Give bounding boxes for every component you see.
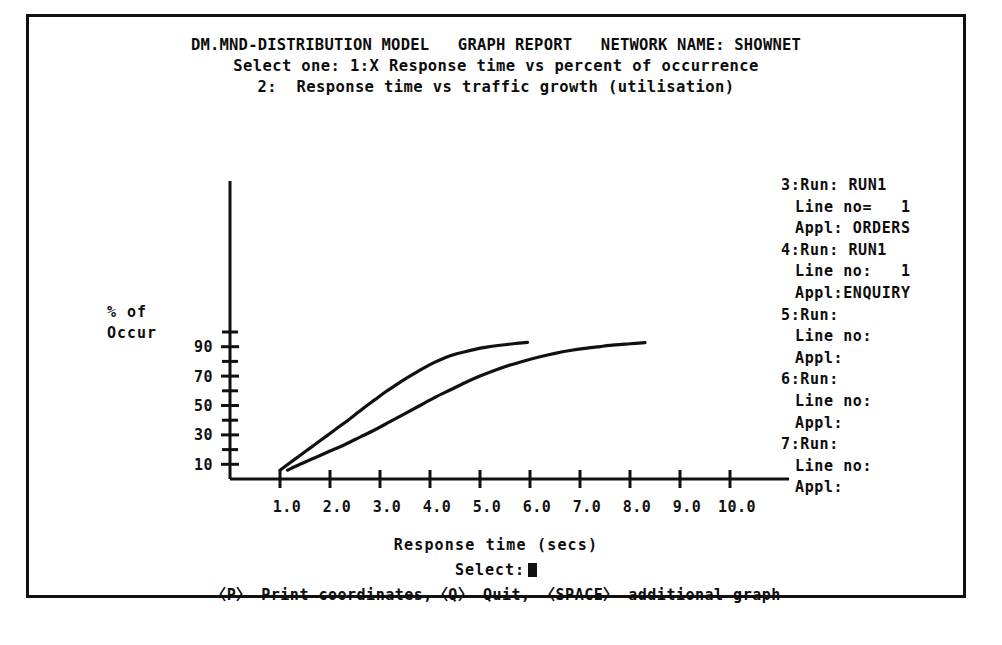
run-row-line-no: Line no: [781, 326, 911, 348]
run-entry-4[interactable]: 4:Run: RUN1Line no: 1Appl:ENQUIRY [781, 240, 911, 305]
x-tick-label: 3.0 [373, 498, 402, 516]
x-tick-label: 6.0 [523, 498, 552, 516]
run-row-line-no: Line no= 1 [781, 197, 911, 219]
run-entry-3[interactable]: 3:Run: RUN1Line no= 1Appl: ORDERS [781, 175, 911, 240]
x-tick-label: 7.0 [573, 498, 602, 516]
run-row-name: 7:Run: [781, 434, 911, 456]
select-prompt-label: Select: [455, 561, 525, 579]
terminal-screen-frame: DM.MND-DISTRIBUTION MODEL GRAPH REPORT N… [26, 14, 966, 598]
x-tick-label: 2.0 [323, 498, 352, 516]
run-row-line-no: Line no: [781, 391, 911, 413]
x-tick-label: 5.0 [473, 498, 502, 516]
x-axis-tick-labels: 1.02.03.04.05.06.07.08.09.010.0 [273, 498, 756, 516]
series-curve-enquiry [288, 343, 646, 471]
select-prompt[interactable]: Select: [29, 561, 963, 579]
command-hint-line: 〈P〉 Print coordinates,〈Q〉 Quit, 〈SPACE〉 … [29, 583, 963, 604]
chart-axes [230, 181, 789, 479]
y-tick-label: 90 [194, 338, 213, 356]
y-tick-label: 70 [194, 368, 213, 386]
block-cursor-icon [528, 563, 537, 577]
series-curve-orders [280, 342, 528, 470]
y-axis-tick-labels: 1030507090 [194, 338, 213, 474]
run-row-appl: Appl: [781, 348, 911, 370]
chart-series-group [280, 342, 645, 470]
run-row-line-no: Line no: [781, 456, 911, 478]
y-axis-label-line2: Occur [107, 324, 157, 342]
x-tick-label: 4.0 [423, 498, 452, 516]
run-row-appl: Appl: [781, 413, 911, 435]
y-axis-label: % ofOccur [107, 302, 157, 344]
run-row-name: 5:Run: [781, 305, 911, 327]
x-tick-label: 10.0 [718, 498, 756, 516]
run-row-appl: Appl: ORDERS [781, 218, 911, 240]
run-entry-5[interactable]: 5:Run:Line no:Appl: [781, 305, 911, 370]
run-row-appl: Appl: [781, 477, 911, 499]
run-selection-list: 3:Run: RUN1Line no= 1Appl: ORDERS4:Run: … [781, 175, 911, 499]
x-tick-label: 8.0 [623, 498, 652, 516]
x-axis-label: Response time (secs) [29, 536, 963, 554]
run-row-name: 4:Run: RUN1 [781, 240, 911, 262]
x-tick-label: 1.0 [273, 498, 302, 516]
y-tick-label: 50 [194, 397, 213, 415]
x-tick-label: 9.0 [673, 498, 702, 516]
y-tick-label: 10 [194, 456, 213, 474]
run-row-name: 3:Run: RUN1 [781, 175, 911, 197]
run-entry-6[interactable]: 6:Run:Line no:Appl: [781, 369, 911, 434]
y-axis-label-line1: % of [107, 303, 147, 321]
run-row-name: 6:Run: [781, 369, 911, 391]
run-entry-7[interactable]: 7:Run:Line no:Appl: [781, 434, 911, 499]
y-tick-label: 30 [194, 426, 213, 444]
run-row-appl: Appl:ENQUIRY [781, 283, 911, 305]
run-row-line-no: Line no: 1 [781, 261, 911, 283]
